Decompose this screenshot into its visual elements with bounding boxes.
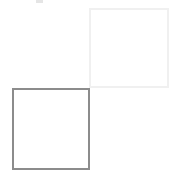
medium-gray-square — [12, 88, 90, 170]
light-gray-square — [89, 8, 169, 88]
diagram-canvas — [0, 0, 177, 176]
faint-mark-artifact — [36, 0, 43, 3]
